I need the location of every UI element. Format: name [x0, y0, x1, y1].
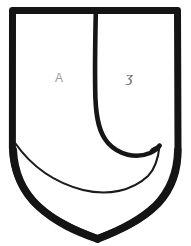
- heraldic-shield-figure: A ʒ: [0, 0, 191, 246]
- letter-y-mark: ʒ: [126, 70, 133, 85]
- shield-drawing-canvas: [0, 0, 191, 246]
- letter-a-mark: A: [55, 72, 63, 84]
